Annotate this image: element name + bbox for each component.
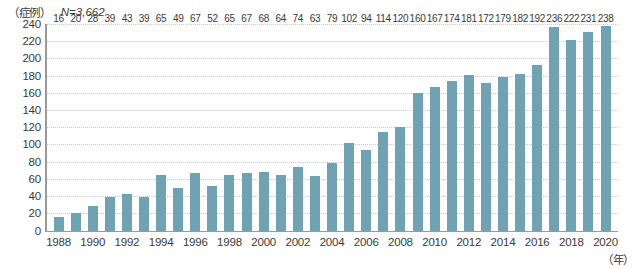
bars-layer: 1620283943396549675265676864746379102941… — [45, 24, 618, 231]
x-axis-slot: 1994 — [153, 236, 170, 252]
bar: 182 — [515, 74, 525, 231]
x-axis-tick-labels: 1988199019921994199619982000200220042006… — [45, 236, 618, 252]
y-axis-tick-label: 60 — [1, 173, 41, 185]
bar-value-label: 181 — [461, 13, 477, 24]
bar-slot: 79 — [324, 24, 341, 231]
bar-slot: 174 — [443, 24, 460, 231]
bar-slot: 49 — [170, 24, 187, 231]
bar-slot: 65 — [153, 24, 170, 231]
y-axis-tick-labels: 020406080100120140160180200220240 — [0, 24, 41, 232]
bar-chart-figure: （症例） N=3,662 020406080100120140160180200… — [0, 0, 640, 269]
y-axis-tick-label: 120 — [1, 121, 41, 133]
bar-slot: 231 — [580, 24, 597, 231]
bar-value-label: 238 — [598, 13, 614, 24]
y-axis-tick-label: 140 — [1, 104, 41, 116]
bar: 231 — [583, 32, 593, 231]
x-axis-slot: 2018 — [563, 236, 580, 252]
bar-slot: 52 — [204, 24, 221, 231]
bar-value-label: 192 — [529, 13, 545, 24]
bar-value-label: 49 — [173, 13, 184, 24]
bar-value-label: 20 — [70, 13, 81, 24]
x-axis-slot: 2010 — [426, 236, 443, 252]
bar-value-label: 67 — [190, 13, 201, 24]
x-axis-unit-label: （年） — [602, 251, 634, 267]
bar-slot: 43 — [118, 24, 135, 231]
y-axis-tick-label: 180 — [1, 70, 41, 82]
bar-slot: 67 — [187, 24, 204, 231]
bar-value-label: 120 — [393, 13, 409, 24]
bar-value-label: 16 — [53, 13, 64, 24]
bar: 181 — [464, 75, 474, 231]
bar: 64 — [276, 175, 286, 230]
bar-value-label: 94 — [361, 13, 372, 24]
x-axis-slot: 2002 — [289, 236, 306, 252]
bar-value-label: 39 — [139, 13, 150, 24]
bar: 39 — [105, 197, 115, 231]
bar-value-label: 222 — [563, 13, 579, 24]
bar-value-label: 68 — [258, 13, 269, 24]
bar-value-label: 65 — [224, 13, 235, 24]
bar: 114 — [378, 132, 388, 230]
bar: 236 — [549, 27, 559, 230]
x-axis-slot: 2016 — [529, 236, 546, 252]
bar-value-label: 179 — [495, 13, 511, 24]
bar: 63 — [310, 176, 320, 230]
bar: 172 — [481, 83, 491, 231]
bar-slot: 67 — [238, 24, 255, 231]
x-axis-slot: 2008 — [392, 236, 409, 252]
bar-slot: 16 — [50, 24, 67, 231]
bar-slot: 179 — [494, 24, 511, 231]
bar-slot: 192 — [529, 24, 546, 231]
bar-slot: 94 — [358, 24, 375, 231]
bar-value-label: 172 — [478, 13, 494, 24]
bar: 79 — [327, 163, 337, 231]
y-axis-tick-label: 0 — [1, 225, 41, 237]
y-axis-tick-label: 20 — [1, 207, 41, 219]
bar-slot: 167 — [426, 24, 443, 231]
y-axis-tick-label: 220 — [1, 35, 41, 47]
y-axis-tick-label: 80 — [1, 156, 41, 168]
bar-value-label: 102 — [341, 13, 357, 24]
bar-value-label: 64 — [276, 13, 287, 24]
bar: 16 — [54, 217, 64, 231]
bar-value-label: 43 — [122, 13, 133, 24]
bar-value-label: 167 — [427, 13, 443, 24]
bar-slot: 114 — [375, 24, 392, 231]
bar-value-label: 52 — [207, 13, 218, 24]
bar: 174 — [447, 81, 457, 231]
bar-slot: 236 — [546, 24, 563, 231]
x-axis-slot: 2012 — [460, 236, 477, 252]
x-axis-slot: 1990 — [84, 236, 101, 252]
bar-value-label: 174 — [444, 13, 460, 24]
bar: 160 — [413, 93, 423, 231]
bar: 67 — [190, 173, 200, 231]
bar-slot: 172 — [477, 24, 494, 231]
plot-area: 1620283943396549675265676864746379102941… — [45, 24, 618, 232]
bar: 179 — [498, 77, 508, 231]
bar: 120 — [395, 127, 405, 230]
x-axis-slot: 1998 — [221, 236, 238, 252]
x-axis-slot: 2006 — [358, 236, 375, 252]
bar-slot: 74 — [289, 24, 306, 231]
y-axis-tick-label: 40 — [1, 190, 41, 202]
bar: 52 — [207, 186, 217, 231]
bar-slot: 64 — [272, 24, 289, 231]
bar: 192 — [532, 65, 542, 230]
bar-value-label: 39 — [105, 13, 116, 24]
x-axis-slot: 2020 — [597, 236, 614, 252]
bar-slot: 68 — [255, 24, 272, 231]
y-axis-tick-label: 100 — [1, 138, 41, 150]
y-axis-tick-label: 160 — [1, 87, 41, 99]
bar-value-label: 67 — [241, 13, 252, 24]
x-axis-tick-label: 2020 — [593, 236, 618, 248]
x-axis-slot: 2000 — [255, 236, 272, 252]
bar: 20 — [71, 213, 81, 230]
y-axis-tick-label: 240 — [1, 18, 41, 30]
bar-value-label: 79 — [327, 13, 338, 24]
bar-value-label: 114 — [376, 13, 391, 24]
bar-value-label: 63 — [310, 13, 321, 24]
bar-value-label: 236 — [546, 13, 562, 24]
x-axis-slot: 1988 — [50, 236, 67, 252]
bar-slot: 181 — [460, 24, 477, 231]
bar-slot: 63 — [306, 24, 323, 231]
